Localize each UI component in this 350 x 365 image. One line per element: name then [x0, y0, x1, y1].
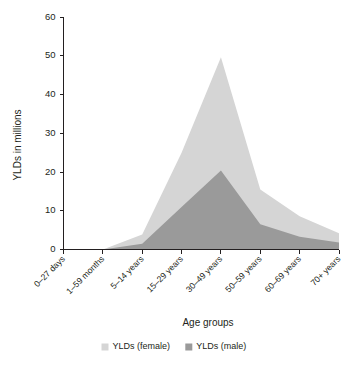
legend-label: YLDs (male) [196, 341, 246, 351]
legend-swatch [185, 344, 192, 351]
y-tick-label: 0 [50, 243, 55, 254]
stacked-area-chart: 0102030405060 0–27 days1–59 months5–14 y… [0, 0, 350, 365]
y-tick-label: 20 [45, 166, 56, 177]
y-tick-label: 50 [45, 49, 56, 60]
y-tick-label: 60 [45, 11, 56, 22]
y-tick-label: 10 [45, 204, 56, 215]
chart-figure: 0102030405060 0–27 days1–59 months5–14 y… [0, 0, 350, 365]
legend-label: YLDs (female) [113, 341, 171, 351]
legend-swatch [102, 344, 109, 351]
x-axis-title: Age groups [182, 317, 233, 328]
y-tick-label: 40 [45, 88, 56, 99]
y-axis-title: YLDs in millions [12, 109, 23, 180]
y-tick-label: 30 [45, 127, 56, 138]
